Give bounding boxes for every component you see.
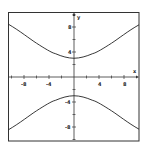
x-tick-label: 4: [98, 81, 102, 87]
y-tick-label: 8: [68, 24, 72, 30]
y-tick-label: 4: [68, 49, 72, 55]
x-tick-label: -8: [21, 81, 27, 87]
hyperbola-plot: -8 -4 4 8 8 4 -4 -8 x y: [0, 0, 146, 146]
x-tick-label: 8: [123, 81, 127, 87]
y-tick-label: -4: [65, 99, 71, 105]
y-axis-label: y: [77, 14, 81, 21]
x-tick-label: -4: [46, 81, 52, 87]
y-tick-label: -8: [65, 124, 71, 130]
x-axis-label: x: [133, 68, 137, 74]
